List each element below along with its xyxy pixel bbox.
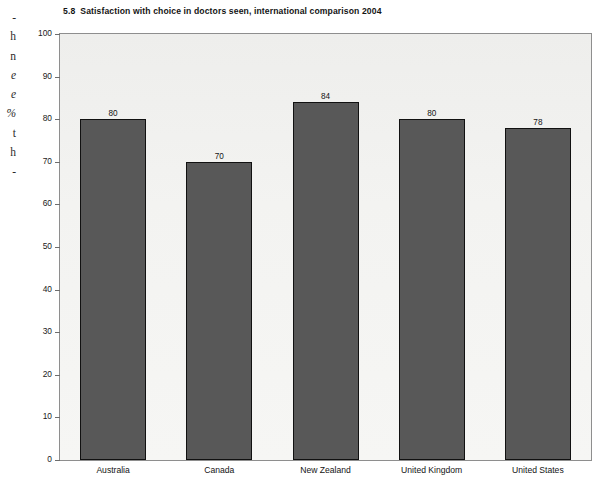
y-axis-tick-mark [55, 204, 60, 205]
page-edge-glyph: h [0, 27, 16, 46]
chart-plot-area: % respondents 0102030405060708090100 807… [59, 33, 592, 461]
x-axis-category-label: United Kingdom [401, 465, 462, 475]
page-edge-glyph: % [0, 104, 16, 123]
y-axis-tick-label: 0 [47, 454, 52, 464]
y-axis-tick-mark [55, 162, 60, 163]
y-axis-tick-label: 30 [43, 326, 52, 336]
figure-number: 5.8 [63, 6, 75, 16]
page-edge-glyph: t [0, 124, 16, 143]
page-edge-glyph: n [0, 47, 16, 66]
y-axis-tick-mark [55, 247, 60, 248]
y-axis-tick-label: 100 [38, 28, 52, 38]
x-axis-category-label: United States [512, 465, 564, 475]
y-axis-tick-mark [55, 460, 60, 461]
bar-value-label: 80 [427, 109, 436, 118]
y-axis-tick-label: 50 [43, 241, 52, 251]
page-edge-glyph: - [0, 8, 16, 27]
y-axis-tick-label: 20 [43, 369, 52, 379]
figure-title-text: Satisfaction with choice in doctors seen… [80, 6, 381, 16]
page-edge-glyph: e [0, 85, 16, 104]
bar-value-label: 70 [215, 152, 224, 161]
y-axis-tick-mark [55, 375, 60, 376]
y-axis-tick-mark [55, 34, 60, 35]
y-axis-tick-label: 40 [43, 284, 52, 294]
x-axis-category-label: Australia [96, 465, 129, 475]
bar-value-label: 78 [533, 118, 542, 127]
y-axis-tick-label: 90 [43, 71, 52, 81]
page-edge-glyph: - [0, 162, 16, 181]
bar: 78 [505, 128, 571, 460]
bar-value-label: 84 [321, 92, 330, 101]
y-axis-tick-label: 80 [43, 113, 52, 123]
y-axis-tick-mark [55, 417, 60, 418]
y-axis-tick-label: 60 [43, 198, 52, 208]
y-axis-tick-mark [55, 77, 60, 78]
bar: 70 [186, 162, 252, 460]
figure-title: 5.8Satisfaction with choice in doctors s… [63, 6, 382, 16]
bar: 84 [293, 102, 359, 460]
y-axis-tick-mark [55, 332, 60, 333]
bar: 80 [80, 119, 146, 460]
page-edge-glyph: h [0, 143, 16, 162]
page-edge-text-column: -hnee%th- [0, 8, 16, 182]
y-axis-tick-mark [55, 119, 60, 120]
y-axis-tick-label: 10 [43, 411, 52, 421]
page-edge-glyph: e [0, 66, 16, 85]
bar-value-label: 80 [109, 109, 118, 118]
x-axis-category-label: Canada [204, 465, 234, 475]
y-axis-tick-mark [55, 290, 60, 291]
x-axis-category-label: New Zealand [300, 465, 351, 475]
y-axis-tick-label: 70 [43, 156, 52, 166]
bar: 80 [399, 119, 465, 460]
